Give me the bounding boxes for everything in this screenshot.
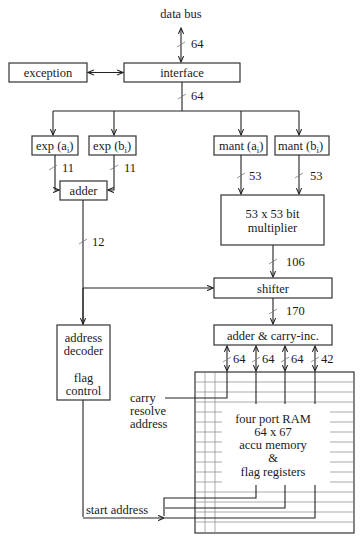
adder-out-width: 12 — [92, 235, 105, 249]
addr-decoder-label-1: address — [65, 331, 103, 345]
shifter-out-width: 170 — [286, 304, 305, 318]
interface-out-width: 64 — [191, 89, 204, 103]
exp-b-to-adder-arrow — [108, 155, 114, 190]
mant-b-width: 53 — [310, 169, 323, 183]
ram-label-2: 64 x 67 — [254, 425, 292, 439]
carry-label-2: resolve — [130, 404, 167, 418]
ram-label-5: flag registers — [241, 465, 306, 479]
ram-label: four port RAM 64 x 67 accu memory & flag… — [235, 412, 311, 479]
adder-carry-label: adder & carry-inc. — [227, 329, 319, 343]
interface-label: interface — [160, 66, 204, 80]
multiplier-label-1: 53 x 53 bit — [246, 207, 300, 221]
multiplier-out-width: 106 — [286, 255, 305, 269]
exception-label: exception — [24, 66, 73, 80]
carry-label-1: carry — [130, 391, 156, 405]
mant-a-width: 53 — [249, 169, 262, 183]
ram-label-3: accu memory — [239, 438, 307, 452]
data-bus-width: 64 — [191, 37, 204, 51]
adder-label: adder — [70, 184, 99, 198]
start-address-label: start address — [86, 503, 148, 517]
addr-decoder-label-3: flag — [74, 371, 94, 385]
diagram-canvas: data bus 64 exception interface 64 exp (… — [0, 0, 361, 543]
mant-a-label: mant (ai) — [219, 139, 263, 155]
exp-a-to-adder-arrow — [55, 155, 59, 190]
ram-port-3-width: 64 — [291, 352, 304, 366]
carry-label-3: address — [130, 417, 168, 431]
ram-label-1: four port RAM — [235, 412, 311, 426]
exp-b-width: 11 — [124, 161, 136, 175]
mant-b-label: mant (bi) — [278, 139, 323, 155]
ram-port-2-width: 64 — [262, 352, 275, 366]
exp-a-width: 11 — [62, 161, 74, 175]
ram-port-1-width: 64 — [233, 352, 246, 366]
ram-label-4: & — [268, 451, 278, 465]
addr-decoder-label-2: decoder — [64, 344, 104, 358]
data-bus-label: data bus — [160, 7, 201, 21]
ram-port-4-width: 42 — [321, 352, 334, 366]
multiplier-label-2: multiplier — [248, 221, 298, 235]
bus-width-tick — [49, 165, 57, 170]
shifter-label: shifter — [257, 282, 290, 296]
addr-decoder-label-4: control — [66, 384, 102, 398]
